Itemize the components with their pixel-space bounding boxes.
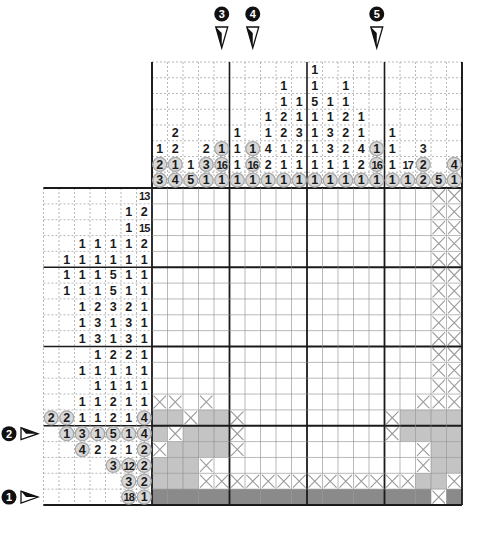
grid-cell[interactable] bbox=[183, 188, 199, 204]
grid-cell[interactable] bbox=[354, 236, 370, 252]
grid-cell[interactable] bbox=[230, 315, 246, 331]
grid-cell[interactable] bbox=[354, 442, 370, 458]
grid-cell[interactable] bbox=[183, 442, 199, 458]
grid-cell[interactable] bbox=[261, 331, 277, 347]
grid-cell[interactable] bbox=[199, 426, 215, 442]
grid-cell[interactable] bbox=[292, 410, 308, 426]
grid-cell[interactable] bbox=[369, 426, 385, 442]
grid-cell[interactable] bbox=[214, 394, 230, 410]
grid-cell[interactable] bbox=[338, 362, 354, 378]
grid-cell[interactable] bbox=[400, 236, 416, 252]
grid-cell[interactable] bbox=[183, 251, 199, 267]
grid-cell[interactable] bbox=[168, 299, 184, 315]
grid-cell[interactable] bbox=[431, 442, 447, 458]
grid-cell[interactable] bbox=[400, 251, 416, 267]
grid-cell[interactable] bbox=[214, 236, 230, 252]
grid-cell[interactable] bbox=[292, 426, 308, 442]
grid-cell[interactable] bbox=[276, 331, 292, 347]
grid-cell[interactable] bbox=[245, 283, 261, 299]
grid-cell[interactable] bbox=[400, 315, 416, 331]
grid-cell[interactable] bbox=[168, 473, 184, 489]
grid-cell[interactable] bbox=[152, 347, 168, 363]
grid-cell[interactable] bbox=[292, 236, 308, 252]
grid-cell[interactable] bbox=[307, 315, 323, 331]
grid-cell[interactable] bbox=[245, 442, 261, 458]
grid-cell[interactable] bbox=[168, 347, 184, 363]
grid-cell[interactable] bbox=[307, 299, 323, 315]
grid-cell[interactable] bbox=[199, 378, 215, 394]
grid-cell[interactable] bbox=[261, 442, 277, 458]
grid-cell[interactable] bbox=[245, 267, 261, 283]
grid-cell[interactable] bbox=[199, 410, 215, 426]
grid-cell[interactable] bbox=[400, 347, 416, 363]
grid-cell[interactable] bbox=[152, 267, 168, 283]
grid-cell[interactable] bbox=[183, 283, 199, 299]
grid-cell[interactable] bbox=[230, 188, 246, 204]
grid-cell[interactable] bbox=[183, 394, 199, 410]
grid-cell[interactable] bbox=[354, 220, 370, 236]
grid-cell[interactable] bbox=[354, 315, 370, 331]
grid-cell[interactable] bbox=[338, 315, 354, 331]
grid-cell[interactable] bbox=[168, 378, 184, 394]
grid-cell[interactable] bbox=[354, 457, 370, 473]
grid-cell[interactable] bbox=[338, 378, 354, 394]
grid-cell[interactable] bbox=[385, 204, 401, 220]
grid-cell[interactable] bbox=[152, 236, 168, 252]
grid-cell[interactable] bbox=[245, 410, 261, 426]
grid-cell[interactable] bbox=[400, 442, 416, 458]
grid-cell[interactable] bbox=[338, 426, 354, 442]
grid-cell[interactable] bbox=[199, 204, 215, 220]
grid-cell[interactable] bbox=[385, 347, 401, 363]
grid-cell[interactable] bbox=[230, 394, 246, 410]
grid-cell[interactable] bbox=[230, 331, 246, 347]
grid-cell[interactable] bbox=[245, 299, 261, 315]
grid-cell[interactable] bbox=[385, 378, 401, 394]
grid-cell[interactable] bbox=[307, 331, 323, 347]
grid-cell[interactable] bbox=[338, 410, 354, 426]
grid-cell[interactable] bbox=[152, 457, 168, 473]
grid-cell[interactable] bbox=[214, 347, 230, 363]
grid-cell[interactable] bbox=[261, 220, 277, 236]
grid-cell[interactable] bbox=[276, 362, 292, 378]
grid-cell[interactable] bbox=[276, 204, 292, 220]
grid-cell[interactable] bbox=[385, 299, 401, 315]
grid-cell[interactable] bbox=[400, 299, 416, 315]
grid-cell[interactable] bbox=[400, 489, 416, 505]
grid-cell[interactable] bbox=[199, 251, 215, 267]
grid-cell[interactable] bbox=[230, 283, 246, 299]
grid-cell[interactable] bbox=[199, 331, 215, 347]
grid-cell[interactable] bbox=[400, 378, 416, 394]
grid-cell[interactable] bbox=[152, 410, 168, 426]
grid-cell[interactable] bbox=[369, 267, 385, 283]
grid-cell[interactable] bbox=[323, 283, 339, 299]
grid-cell[interactable] bbox=[354, 204, 370, 220]
grid-cell[interactable] bbox=[261, 236, 277, 252]
grid-cell[interactable] bbox=[230, 347, 246, 363]
grid-cell[interactable] bbox=[369, 442, 385, 458]
grid-cell[interactable] bbox=[400, 457, 416, 473]
grid-cell[interactable] bbox=[400, 426, 416, 442]
grid-cell[interactable] bbox=[416, 236, 432, 252]
grid-cell[interactable] bbox=[230, 204, 246, 220]
grid-cell[interactable] bbox=[369, 457, 385, 473]
grid-cell[interactable] bbox=[416, 315, 432, 331]
grid-cell[interactable] bbox=[168, 283, 184, 299]
grid-cell[interactable] bbox=[307, 426, 323, 442]
grid-cell[interactable] bbox=[214, 362, 230, 378]
grid-cell[interactable] bbox=[369, 489, 385, 505]
grid-cell[interactable] bbox=[369, 410, 385, 426]
grid-cell[interactable] bbox=[354, 394, 370, 410]
grid-cell[interactable] bbox=[354, 267, 370, 283]
grid-cell[interactable] bbox=[168, 251, 184, 267]
grid-cell[interactable] bbox=[276, 457, 292, 473]
grid-cell[interactable] bbox=[276, 378, 292, 394]
grid-cell[interactable] bbox=[354, 426, 370, 442]
grid-cell[interactable] bbox=[168, 457, 184, 473]
grid-cell[interactable] bbox=[369, 236, 385, 252]
grid-cell[interactable] bbox=[338, 347, 354, 363]
grid-cell[interactable] bbox=[307, 362, 323, 378]
grid-cell[interactable] bbox=[447, 442, 463, 458]
grid-cell[interactable] bbox=[199, 299, 215, 315]
grid-cell[interactable] bbox=[323, 362, 339, 378]
grid-cell[interactable] bbox=[307, 378, 323, 394]
